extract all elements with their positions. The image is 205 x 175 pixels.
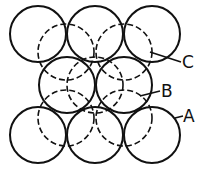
sphere-b — [96, 57, 152, 113]
sphere-a — [67, 107, 123, 163]
layer-label-b: B — [161, 83, 173, 100]
sphere-a — [67, 6, 123, 62]
layer-label-c: C — [182, 54, 194, 71]
sphere-b — [39, 57, 95, 113]
sphere-packing-diagram — [0, 0, 205, 175]
leader-line-c — [150, 52, 181, 62]
leader-line-a — [175, 116, 183, 118]
layer-label-a: A — [183, 108, 195, 125]
layer-b-spheres — [39, 57, 152, 113]
